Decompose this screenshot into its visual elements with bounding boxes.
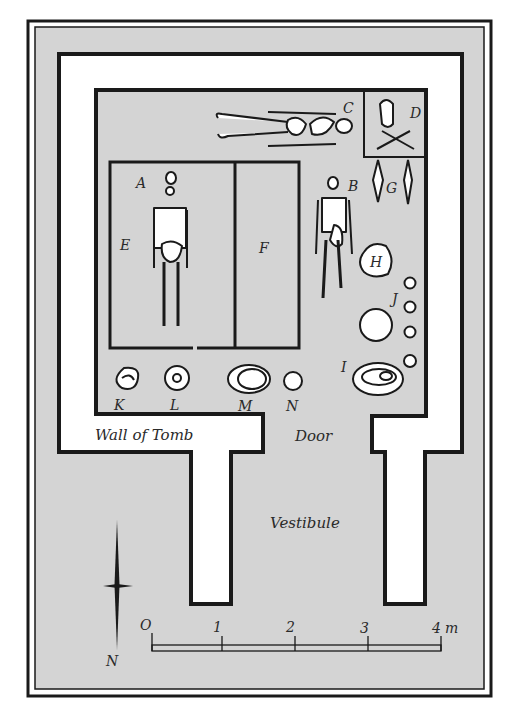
- label-m: M: [237, 398, 253, 414]
- label-l: L: [169, 397, 179, 413]
- object-i: [353, 363, 403, 395]
- object-m-inner: [238, 369, 266, 389]
- object-l-inner: [173, 374, 181, 382]
- label-c: C: [343, 100, 354, 116]
- object-n: [284, 372, 302, 390]
- scale-unit: m: [445, 620, 458, 636]
- scale-tick-3: 3: [360, 620, 369, 636]
- label-d: D: [409, 105, 421, 121]
- tomb-plan-diagram: C D A B G E F H J I K L M N Wall of Tomb…: [0, 0, 517, 714]
- label-b: B: [347, 178, 358, 194]
- scale-tick-1: 1: [213, 619, 222, 635]
- object-k: [116, 368, 138, 389]
- label-h: H: [369, 254, 383, 270]
- object-j-2: [405, 302, 416, 313]
- label-n: N: [285, 398, 299, 414]
- object-j-1: [405, 278, 416, 289]
- north-label: N: [105, 653, 119, 669]
- object-j-4: [404, 355, 416, 367]
- scale-tick-2: 2: [285, 619, 295, 635]
- caption-door: Door: [294, 427, 333, 445]
- label-e: E: [119, 237, 130, 253]
- label-i: I: [340, 359, 347, 375]
- scale-tick-0: O: [140, 617, 152, 633]
- label-g: G: [386, 180, 397, 196]
- object-j-3: [405, 327, 416, 338]
- caption-wall-of-tomb: Wall of Tomb: [95, 426, 193, 444]
- object-large-vessel: [360, 309, 392, 341]
- label-f: F: [258, 240, 270, 256]
- label-a: A: [134, 175, 146, 191]
- scale-tick-4: 4: [431, 620, 441, 636]
- caption-vestibule: Vestibule: [270, 514, 340, 532]
- label-k: K: [113, 397, 126, 413]
